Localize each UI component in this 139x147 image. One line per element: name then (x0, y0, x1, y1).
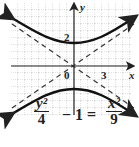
denominator-4: 4 (34, 112, 49, 127)
numerator-x2: x² (106, 96, 122, 112)
x-tick-3: 3 (101, 69, 107, 81)
y-axis-label: y (78, 1, 85, 13)
numerator-y2: y² (34, 96, 49, 112)
y-tick-2: 2 (64, 31, 70, 43)
fraction-y: y² 4 (34, 96, 49, 127)
equation: y² 4 − 1 = x² 9 (10, 96, 135, 146)
origin-label: 0 (64, 69, 70, 81)
denominator-9: 9 (106, 112, 122, 127)
fraction-x: x² 9 (106, 96, 122, 127)
x-axis-label: x (128, 69, 135, 81)
equation-middle: − 1 = (62, 106, 96, 124)
